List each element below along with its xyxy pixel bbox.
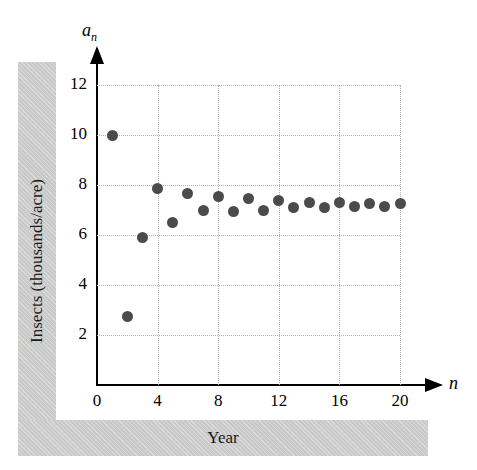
y-tick-label: 12 [61,74,87,94]
data-point [198,205,209,216]
data-point [107,130,118,141]
data-point [304,197,315,208]
gridline-vertical [279,85,280,385]
data-point [228,206,239,217]
x-tick-label: 12 [264,391,294,411]
x-axis-variable-label: n [449,373,458,394]
data-point [273,195,284,206]
gridline-horizontal [97,135,400,136]
gridline-horizontal [97,185,400,186]
plot-area: an n 24681012 048121620 [0,0,477,470]
y-tick-label: 8 [61,174,87,194]
data-point [258,205,269,216]
y-tick-label: 2 [61,324,87,344]
gridline-vertical [218,85,219,385]
x-tick-label: 16 [324,391,354,411]
data-point [137,232,148,243]
x-tick-label: 4 [143,391,173,411]
x-tick-label: 20 [385,391,415,411]
gridline-vertical [400,85,401,385]
gridline-vertical [339,85,340,385]
data-point [334,197,345,208]
gridline-vertical [158,85,159,385]
data-point [213,191,224,202]
y-tick-label: 10 [61,124,87,144]
gridline-horizontal [97,285,400,286]
data-point [349,201,360,212]
gridline-horizontal [97,85,400,86]
y-tick-label: 4 [61,274,87,294]
x-tick-label: 0 [82,391,112,411]
data-point [319,202,330,213]
data-point [395,198,406,209]
figure-container: Insects (thousands/acre) Year an n 24681… [0,0,477,470]
y-tick-label: 6 [61,224,87,244]
data-point [122,311,133,322]
y-axis-variable-label: an [82,20,97,45]
x-tick-label: 8 [203,391,233,411]
gridline-horizontal [97,335,400,336]
